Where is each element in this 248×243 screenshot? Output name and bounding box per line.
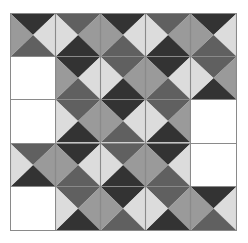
tile[interactable]	[146, 187, 191, 230]
tile-b-icon	[146, 14, 190, 56]
tile-b-icon	[146, 100, 190, 142]
tile[interactable]	[56, 144, 101, 187]
tile[interactable]	[56, 57, 101, 100]
tile[interactable]	[56, 14, 101, 57]
tile[interactable]	[146, 14, 191, 57]
tile-a-icon	[146, 57, 190, 99]
empty-slot[interactable]	[11, 187, 56, 230]
tile-b-icon	[101, 57, 145, 99]
tile[interactable]	[191, 187, 236, 230]
empty-slot[interactable]	[11, 57, 56, 100]
tile-b-icon	[56, 187, 100, 230]
tile[interactable]	[101, 144, 146, 187]
tile[interactable]	[11, 144, 56, 187]
tile-a-icon	[101, 100, 145, 142]
tile[interactable]	[191, 57, 236, 100]
tile-a-icon	[101, 14, 145, 56]
tile-a-icon	[101, 187, 145, 230]
tile-b-icon	[101, 144, 145, 186]
tile[interactable]	[101, 57, 146, 100]
tile-a-icon	[56, 57, 100, 99]
tile[interactable]	[191, 14, 236, 57]
tile[interactable]	[101, 100, 146, 143]
empty-slot[interactable]	[191, 144, 236, 187]
tile[interactable]	[101, 187, 146, 230]
tile[interactable]	[11, 14, 56, 57]
tile-a-icon	[11, 14, 55, 56]
empty-slot[interactable]	[11, 100, 56, 143]
tile[interactable]	[146, 57, 191, 100]
tile-b-icon	[191, 57, 236, 99]
tile-b-icon	[56, 14, 100, 56]
tile[interactable]	[146, 144, 191, 187]
tile[interactable]	[56, 187, 101, 230]
tile-a-icon	[191, 14, 236, 56]
tile-a-icon	[56, 144, 100, 186]
tile-a-icon	[191, 187, 236, 230]
tile[interactable]	[56, 100, 101, 143]
empty-slot[interactable]	[191, 100, 236, 143]
puzzle-board	[10, 13, 237, 231]
tile-b-icon	[56, 100, 100, 142]
tile-b-icon	[11, 144, 55, 186]
tile[interactable]	[146, 100, 191, 143]
tile-b-icon	[146, 187, 190, 230]
tile-a-icon	[146, 144, 190, 186]
tile[interactable]	[101, 14, 146, 57]
